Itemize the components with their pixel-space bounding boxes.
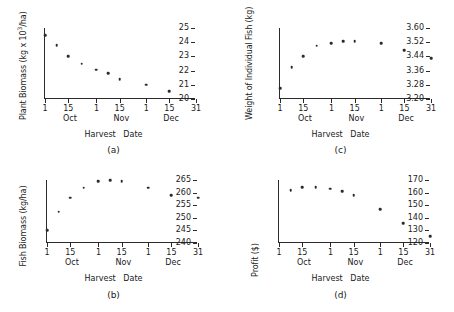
x-axis-tick-label: 31	[188, 248, 208, 257]
x-axis-tick-label: 1	[371, 104, 391, 113]
x-axis-tick-label: 15	[293, 104, 313, 113]
y-axis-tick	[426, 28, 430, 29]
y-axis-tick	[193, 180, 197, 181]
figure-four-panel-scatter: Plant Biomass (kg x 103/ha) 202122232425…	[0, 0, 454, 312]
data-point	[109, 179, 112, 182]
data-point	[279, 87, 282, 90]
data-point	[44, 34, 47, 37]
y-axis-tick-label: 20	[179, 95, 189, 103]
y-axis-tick-label: 240	[176, 239, 191, 247]
data-point	[170, 194, 173, 197]
data-point	[107, 72, 110, 75]
y-axis-tick-label: 3.20	[406, 95, 424, 103]
y-axis-tick-label: 3.60	[406, 24, 424, 32]
x-axis-tick	[68, 99, 69, 103]
x-axis-tick-label: 15	[112, 248, 132, 257]
x-axis-tick	[196, 99, 197, 103]
x-axis-tick	[120, 99, 121, 103]
x-axis-month-label: Nov	[106, 114, 136, 123]
x-axis-tick	[148, 243, 149, 247]
y-axis-tick-label: 170	[408, 176, 423, 184]
y-axis-tick-label: 150	[408, 201, 423, 209]
y-axis-tick-label: 22	[179, 67, 189, 75]
y-axis-tick-label: 260	[176, 189, 191, 197]
y-axis-tick-label: 25	[179, 24, 189, 32]
panel-c: Weight of Individual Fish (kg) 3.203.283…	[227, 0, 454, 156]
x-axis-tick-label: 15	[344, 248, 364, 257]
x-axis-tick	[381, 99, 382, 103]
y-axis-tick	[425, 193, 429, 194]
data-point	[289, 189, 292, 192]
x-axis-tick	[45, 99, 46, 103]
data-point	[97, 180, 100, 183]
y-axis-tick	[426, 85, 430, 86]
x-axis-tick	[331, 99, 332, 103]
x-axis-month-label: Dec	[156, 114, 186, 123]
y-axis-tick-label: 120	[408, 239, 423, 247]
x-axis-tick	[403, 243, 404, 247]
data-point	[145, 83, 148, 86]
x-axis-tick	[96, 99, 97, 103]
y-axis-tick	[191, 28, 195, 29]
x-axis-tick	[169, 99, 170, 103]
y-axis-tick	[193, 243, 197, 244]
y-axis-tick-label: 245	[176, 226, 191, 234]
panel-d: Profit ($) 12013014015016017011511511531…	[227, 156, 454, 312]
x-axis-tick	[330, 243, 331, 247]
y-axis-tick	[193, 218, 197, 219]
data-point	[341, 190, 344, 193]
panel-a-ylabel: Plant Biomass (kg x 103/ha)	[13, 16, 27, 120]
x-axis-tick-label: 15	[394, 104, 414, 113]
x-axis-month-label: Oct	[289, 258, 319, 267]
y-axis-tick	[426, 42, 430, 43]
panel-b-plot-area: 24024525025526026511511511531OctNovDec	[46, 180, 197, 243]
data-point	[147, 186, 150, 189]
y-axis-tick	[193, 230, 197, 231]
panel-d-plot-area: 12013014015016017011511511531OctNovDec	[278, 180, 429, 243]
data-point	[118, 78, 121, 81]
data-point	[290, 66, 293, 69]
x-axis-month-label: Dec	[391, 114, 421, 123]
x-axis-month-label: Nov	[340, 258, 370, 267]
data-point	[120, 180, 123, 183]
x-axis-tick-label: 1	[270, 104, 290, 113]
x-axis-month-label: Dec	[390, 258, 420, 267]
panel-d-xlabel: Harvest Date	[227, 274, 454, 284]
x-axis-tick	[280, 99, 281, 103]
x-axis-tick	[380, 243, 381, 247]
data-point	[380, 42, 383, 45]
data-point	[315, 44, 318, 47]
y-axis-tick-label: 265	[176, 176, 191, 184]
panel-a-xlabel: Harvest Date	[0, 130, 227, 140]
panel-d-caption: (d)	[227, 290, 454, 301]
x-axis-tick	[430, 243, 431, 247]
x-axis-month-label: Nov	[341, 114, 371, 123]
data-point	[168, 90, 171, 93]
y-axis-tick	[425, 243, 429, 244]
y-axis-tick-label: 3.36	[406, 67, 424, 75]
x-axis-tick	[146, 99, 147, 103]
x-axis-tick-label: 1	[136, 104, 156, 113]
data-point	[82, 186, 85, 189]
y-axis-tick-label: 3.28	[406, 81, 424, 89]
x-axis-tick	[431, 99, 432, 103]
y-axis-tick-label: 140	[408, 214, 423, 222]
x-axis-tick-label: 1	[321, 104, 341, 113]
x-axis-tick-label: 15	[58, 104, 78, 113]
x-axis-tick-label: 31	[421, 104, 441, 113]
panel-c-ylabel: Weight of Individual Fish (kg)	[239, 16, 253, 120]
panel-a-caption: (a)	[0, 145, 227, 156]
x-axis-tick-label: 15	[345, 104, 365, 113]
data-point	[67, 55, 70, 58]
data-point	[342, 40, 345, 43]
x-axis-tick-label: 1	[88, 248, 108, 257]
x-axis-tick-label: 15	[159, 104, 179, 113]
data-point	[330, 42, 333, 45]
data-point	[301, 186, 304, 189]
panel-a: Plant Biomass (kg x 103/ha) 202122232425…	[0, 0, 227, 156]
y-axis-tick-label: 250	[176, 214, 191, 222]
y-axis-tick	[191, 99, 195, 100]
panel-c-caption: (c)	[227, 145, 454, 156]
y-axis-tick	[425, 218, 429, 219]
data-point	[80, 62, 83, 65]
